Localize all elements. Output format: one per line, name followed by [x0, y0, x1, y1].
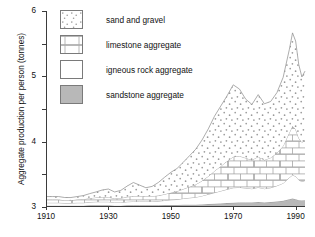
x-tick-mark: [296, 206, 297, 210]
y-tick-mark: 3: [42, 109, 46, 110]
x-axis-line: [46, 206, 305, 207]
y-tick-mark: 6: [42, 11, 46, 12]
y-tick-label: 6: [24, 7, 36, 15]
legend-label-sand-and-gravel: sand and gravel: [106, 15, 165, 25]
y-tick-label: 4: [24, 138, 36, 146]
x-tick-label: 1990: [287, 212, 305, 221]
x-tick-label: 1910: [37, 212, 55, 221]
y-axis-title: Aggregate production per person (tonnes): [16, 9, 26, 209]
chart-figure: Aggregate production per person (tonnes): [0, 0, 315, 237]
x-tick-label: 1950: [162, 212, 180, 221]
y-tick-mark: 1: [42, 174, 46, 175]
legend-label-limestone-aggregate: limestone aggregate: [106, 40, 181, 50]
y-tick-mark: 5: [42, 44, 46, 45]
legend-label-sandstone-aggregate: sandstone aggregate: [106, 90, 184, 100]
x-tick-label: 1930: [99, 212, 117, 221]
legend-item-igneous-rock-aggregate: igneous rock aggregate: [60, 60, 240, 85]
x-tick-label: 1970: [224, 212, 242, 221]
y-tick-mark: 2: [42, 142, 46, 143]
x-tick-mark: [171, 206, 172, 210]
x-tick-mark: [233, 206, 234, 210]
y-axis-line: [46, 11, 47, 207]
legend-swatch-sand-and-gravel: [60, 10, 83, 29]
x-tick-mark: [46, 206, 47, 210]
y-tick-label: 3: [24, 203, 36, 211]
x-tick-mark: [108, 206, 109, 210]
y-tick-label: 5: [24, 72, 36, 80]
y-tick-mark: 4: [42, 76, 46, 77]
legend-swatch-sandstone-aggregate: [60, 85, 83, 104]
legend-item-limestone-aggregate: limestone aggregate: [60, 35, 240, 60]
legend-item-sandstone-aggregate: sandstone aggregate: [60, 85, 240, 110]
legend-item-sand-and-gravel: sand and gravel: [60, 10, 240, 35]
legend-swatch-igneous-rock-aggregate: [60, 60, 83, 79]
legend-label-igneous-rock-aggregate: igneous rock aggregate: [106, 65, 193, 75]
chart-legend: sand and gravel limestone aggregate igne…: [60, 10, 240, 110]
legend-swatch-limestone-aggregate: [60, 35, 83, 54]
